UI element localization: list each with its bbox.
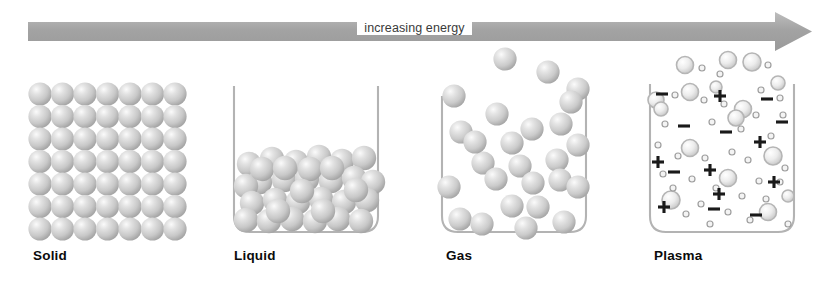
solid-particles-area (8, 52, 208, 248)
gas-particles-area (420, 52, 620, 248)
solid-lattice-graphic (8, 52, 208, 248)
increasing-energy-arrow: increasing energy (0, 0, 829, 56)
gas-beaker-graphic (420, 52, 620, 248)
panel-label-plasma: Plasma (654, 248, 702, 263)
plasma-particles-area (628, 52, 828, 248)
panel-plasma: Plasma (628, 52, 828, 284)
increasing-energy-label: increasing energy (357, 21, 471, 35)
panel-label-liquid: Liquid (234, 248, 276, 263)
liquid-particles-area (212, 52, 412, 248)
states-of-matter-diagram: increasing energy (0, 0, 829, 284)
panel-solid: Solid (8, 52, 208, 284)
panel-label-solid: Solid (33, 248, 67, 263)
panel-label-gas: Gas (446, 248, 472, 263)
solid-sphere-grid (28, 82, 186, 240)
gas-spheres (437, 84, 589, 239)
liquid-spheres (234, 145, 385, 233)
panel-gas: Gas (420, 52, 620, 284)
plasma-beaker-graphic (628, 52, 828, 248)
liquid-beaker-graphic (212, 52, 412, 248)
panel-liquid: Liquid (212, 52, 412, 284)
arrow-label-row: increasing energy (0, 22, 829, 35)
